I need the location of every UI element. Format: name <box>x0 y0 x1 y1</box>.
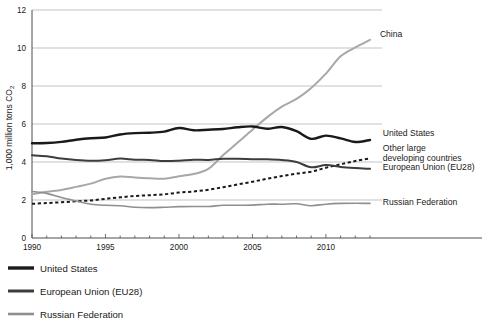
legend-label: Russian Federation <box>40 309 123 320</box>
chart-canvas: 024681012 19901995200020052010 ChinaUnit… <box>0 0 489 335</box>
x-tick-label-1995: 1995 <box>96 243 115 252</box>
series-line-china <box>32 40 370 194</box>
legend-item-european-union-eu28[interactable]: European Union (EU28) <box>8 286 142 297</box>
x-axis-tick-labels: 19901995200020052010 <box>23 243 336 252</box>
series-label-china: China <box>380 29 403 39</box>
series-line-russian-federation <box>32 191 370 207</box>
y-tick-label-2: 2 <box>21 196 26 205</box>
y-axis-tick-labels: 024681012 <box>17 6 27 243</box>
legend-label: United States <box>40 263 98 274</box>
y-tick-label-0: 0 <box>21 234 26 243</box>
x-axis-ticks <box>32 234 370 238</box>
y-tick-label-10: 10 <box>17 44 27 53</box>
legend-item-united-states[interactable]: United States <box>8 263 98 274</box>
series-end-labels: ChinaUnited StatesOther largedeveloping … <box>380 29 475 207</box>
series-label-european-union-eu28: European Union (EU28) <box>383 162 475 172</box>
x-tick-label-2005: 2005 <box>243 243 262 252</box>
x-tick-label-2010: 2010 <box>317 243 336 252</box>
series-label-other-large-developing-countries: Other largedeveloping countries <box>383 143 462 163</box>
y-tick-label-6: 6 <box>21 120 26 129</box>
series-label-united-states: United States <box>383 128 435 138</box>
gridlines <box>32 10 382 200</box>
y-tick-label-12: 12 <box>17 6 27 15</box>
x-tick-label-2000: 2000 <box>170 243 189 252</box>
y-tick-label-8: 8 <box>21 82 26 91</box>
series-line-united-states <box>32 126 370 143</box>
y-tick-label-4: 4 <box>21 158 26 167</box>
y-axis-title: 1,000 million tons CO2 <box>4 85 15 170</box>
emissions-line-chart: 024681012 19901995200020052010 ChinaUnit… <box>0 0 489 335</box>
y-axis-title-text: 1,000 million tons CO2 <box>4 85 15 170</box>
series-label-russian-federation: Russian Federation <box>383 197 458 207</box>
legend-label: European Union (EU28) <box>40 286 142 297</box>
legend-item-russian-federation[interactable]: Russian Federation <box>8 309 123 320</box>
chart-legend: United StatesEuropean Union (EU28)Russia… <box>8 263 142 320</box>
x-tick-label-1990: 1990 <box>23 243 42 252</box>
